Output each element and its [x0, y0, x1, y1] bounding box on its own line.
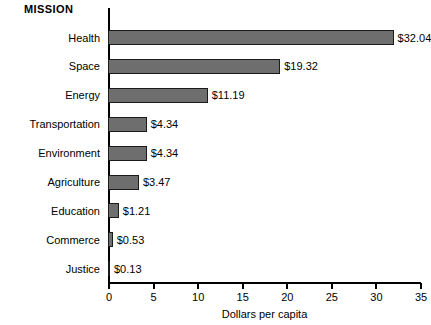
bar-value-label: $0.53 — [117, 233, 145, 246]
x-tick-mark — [375, 283, 377, 289]
bar-value-label: $4.34 — [151, 147, 179, 160]
x-tick-mark — [420, 283, 422, 289]
x-tick-label: 10 — [192, 291, 204, 304]
bar — [108, 88, 208, 103]
bar-value-label: $3.47 — [143, 176, 171, 189]
category-label: Space — [69, 60, 100, 73]
x-tick-mark — [331, 283, 333, 289]
bar-value-label: $4.34 — [151, 118, 179, 131]
x-tick-label: 30 — [370, 291, 382, 304]
bar-row: Transportation$4.34 — [0, 117, 431, 132]
bar — [108, 232, 113, 247]
category-label: Health — [68, 31, 100, 44]
x-tick-label: 5 — [151, 291, 157, 304]
bar — [108, 203, 119, 218]
bar-value-label: $1.21 — [123, 204, 151, 217]
bar — [108, 261, 110, 276]
bar-value-label: $32.04 — [398, 31, 431, 44]
category-axis-line — [108, 282, 421, 284]
bar — [108, 30, 394, 45]
x-tick-mark — [108, 283, 110, 289]
category-label: Agriculture — [47, 176, 100, 189]
x-tick-mark — [242, 283, 244, 289]
x-tick-label: 0 — [106, 291, 112, 304]
bar-row: Education$1.21 — [0, 203, 431, 218]
plot-area: Health$32.04Space$19.32Energy$11.19Trans… — [0, 0, 431, 325]
x-tick-label: 20 — [281, 291, 293, 304]
bar — [108, 146, 147, 161]
bar — [108, 59, 280, 74]
bar — [108, 175, 139, 190]
bar-value-label: $19.32 — [284, 60, 318, 73]
x-tick-mark — [153, 283, 155, 289]
category-label: Education — [51, 204, 100, 217]
category-label: Commerce — [46, 233, 100, 246]
category-label: Energy — [65, 89, 100, 102]
bar-value-label: $0.13 — [114, 262, 142, 275]
x-tick-label: 35 — [415, 291, 427, 304]
bar-row: Justice$0.13 — [0, 261, 431, 276]
bar-row: Health$32.04 — [0, 30, 431, 45]
x-tick-mark — [197, 283, 199, 289]
bar-value-label: $11.19 — [212, 89, 245, 102]
category-label: Environment — [38, 147, 100, 160]
bar — [108, 117, 147, 132]
bar-chart: MISSION Health$32.04Space$19.32Energy$11… — [0, 0, 431, 325]
bar-row: Energy$11.19 — [0, 88, 431, 103]
bar-row: Agriculture$3.47 — [0, 175, 431, 190]
bar-row: Space$19.32 — [0, 59, 431, 74]
x-tick-label: 25 — [326, 291, 338, 304]
x-tick-label: 15 — [237, 291, 249, 304]
x-tick-mark — [286, 283, 288, 289]
category-label: Transportation — [29, 118, 100, 131]
x-axis-title: Dollars per capita — [108, 308, 421, 321]
category-label: Justice — [66, 262, 100, 275]
bar-row: Commerce$0.53 — [0, 232, 431, 247]
bar-row: Environment$4.34 — [0, 146, 431, 161]
